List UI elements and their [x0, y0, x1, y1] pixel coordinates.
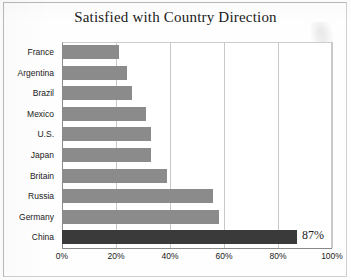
category-label-germany: Germany [19, 207, 54, 228]
x-axis-tick-labels: 0%20%40%60%80%100% [62, 251, 351, 267]
chart-title: Satisfied with Country Direction [0, 9, 351, 26]
x-axis-line [62, 248, 332, 249]
bar-argentina[interactable] [62, 66, 127, 80]
bar-value-label: 87% [302, 228, 324, 243]
bar-russia[interactable] [62, 189, 213, 203]
bar-row [62, 166, 332, 187]
x-tick-20: 20% [107, 251, 124, 261]
bar-series: 87% [62, 42, 332, 248]
bar-germany[interactable] [62, 210, 219, 224]
bar-row [62, 104, 332, 125]
bar-mexico[interactable] [62, 107, 146, 121]
bar-britain[interactable] [62, 169, 167, 183]
bar-row [62, 42, 332, 63]
bar-row [62, 63, 332, 84]
x-tick-80: 80% [269, 251, 286, 261]
category-label-japan: Japan [31, 145, 54, 166]
bar-china[interactable] [62, 230, 297, 244]
bar-row [62, 83, 332, 104]
category-label-us: U.S. [37, 124, 54, 145]
x-tick-0: 0% [56, 251, 68, 261]
category-label-brazil: Brazil [33, 83, 54, 104]
x-tick-60: 60% [215, 251, 232, 261]
category-label-france: France [28, 42, 54, 63]
bar-row: 87% [62, 227, 332, 248]
bar-row [62, 124, 332, 145]
bar-us[interactable] [62, 127, 151, 141]
plot-wrap: 87% [62, 42, 332, 248]
category-label-britain: Britain [30, 166, 54, 187]
bar-brazil[interactable] [62, 86, 132, 100]
gridline-100 [332, 42, 333, 248]
x-tick-100: 100% [321, 251, 343, 261]
category-label-mexico: Mexico [27, 104, 54, 125]
bar-japan[interactable] [62, 148, 151, 162]
bar-row [62, 186, 332, 207]
bar-france[interactable] [62, 45, 119, 59]
x-tick-40: 40% [161, 251, 178, 261]
category-label-russia: Russia [28, 186, 54, 207]
y-axis-category-labels: FranceArgentinaBrazilMexicoU.S.JapanBrit… [0, 42, 58, 248]
chart-figure: Satisfied with Country Direction FranceA… [0, 0, 351, 280]
bar-row [62, 145, 332, 166]
bar-row [62, 207, 332, 228]
category-label-argentina: Argentina [18, 63, 54, 84]
category-label-china: China [32, 227, 54, 248]
